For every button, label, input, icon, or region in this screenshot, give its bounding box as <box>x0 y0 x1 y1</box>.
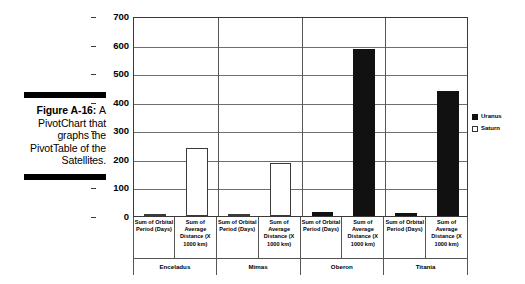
bar-uranus[interactable] <box>353 49 375 216</box>
pivot-chart: 7006005004003002001000 Sum of Orbital Pe… <box>110 4 522 280</box>
x-axis-category-label: Sum of Orbital Period (Days) <box>384 217 426 259</box>
bar-uranus[interactable] <box>395 213 417 216</box>
legend-item[interactable]: Uranus <box>472 113 522 120</box>
y-axis-tick <box>91 74 96 75</box>
x-axis-category-band: Sum of Orbital Period (Days)Sum of Avera… <box>133 217 468 259</box>
y-axis-tick <box>91 188 96 189</box>
x-axis-category-label: Sum of Orbital Period (Days) <box>133 217 175 259</box>
y-axis-tick <box>91 131 96 132</box>
x-axis-category-text: Sum of Orbital Period (Days) <box>384 219 425 233</box>
y-axis-tick-label: 700 <box>101 12 129 22</box>
x-axis-group-text: Oberon <box>331 263 353 271</box>
x-axis-category-text: Sum of Average Distance (X 1000 km) <box>259 219 300 248</box>
x-axis-category-label: Sum of Orbital Period (Days) <box>301 217 343 259</box>
y-axis-tick-label: 100 <box>101 183 129 193</box>
y-axis-tick <box>91 46 96 47</box>
x-axis-category-text: Sum of Orbital Period (Days) <box>134 219 174 233</box>
legend-item[interactable]: Saturn <box>472 125 522 132</box>
x-axis-category-label: Sum of Average Distance (X 1000 km) <box>426 217 468 259</box>
x-axis-category-text: Sum of Average Distance (X 1000 km) <box>426 219 467 248</box>
caption-rule-top <box>24 92 106 98</box>
y-axis: 7006005004003002001000 <box>96 17 129 217</box>
bar-saturn[interactable] <box>144 214 166 216</box>
plot-area <box>133 17 468 217</box>
figure-number: Figure A-16: <box>37 104 97 116</box>
x-axis-category-text: Sum of Average Distance (X 1000 km) <box>342 219 383 248</box>
chart-legend: UranusSaturn <box>472 113 522 137</box>
x-axis-group-label: Mimas <box>217 259 301 275</box>
legend-swatch-icon <box>472 126 478 132</box>
x-axis-category-label: Sum of Orbital Period (Days) <box>217 217 259 259</box>
x-axis-category-label: Sum of Average Distance (X 1000 km) <box>175 217 217 259</box>
x-axis-group-text: Titania <box>416 263 436 271</box>
y-axis-tick <box>91 103 96 104</box>
x-axis-category-label: Sum of Average Distance (X 1000 km) <box>342 217 384 259</box>
bar-uranus[interactable] <box>437 91 459 216</box>
x-axis-group-label: Enceladus <box>133 259 217 275</box>
bar-series-container <box>134 18 467 216</box>
bar-uranus[interactable] <box>312 212 334 216</box>
caption-rule-bottom <box>24 174 106 180</box>
y-axis-tick-label: 0 <box>101 212 129 222</box>
x-axis-group-label: Titania <box>384 259 468 275</box>
y-axis-tick-label: 200 <box>101 155 129 165</box>
legend-swatch-icon <box>472 114 478 120</box>
y-axis-tick-label: 400 <box>101 98 129 108</box>
figure-caption: Figure A-16: A PivotChart that graphs th… <box>24 92 106 180</box>
y-axis-tick <box>91 17 96 18</box>
legend-label: Saturn <box>481 125 500 132</box>
bar-saturn[interactable] <box>228 214 250 216</box>
x-axis-category-text: Sum of Orbital Period (Days) <box>217 219 258 233</box>
x-axis-group-band: EnceladusMimasOberonTitania <box>133 259 468 275</box>
legend-label: Uranus <box>481 113 502 120</box>
bar-saturn[interactable] <box>186 148 208 216</box>
y-axis-tick <box>91 160 96 161</box>
y-axis-tick-label: 600 <box>101 41 129 51</box>
x-axis-group-text: Mimas <box>248 263 267 271</box>
y-axis-tick <box>91 217 96 218</box>
x-axis-group-text: Enceladus <box>159 263 190 271</box>
y-axis-tick-label: 300 <box>101 126 129 136</box>
bar-saturn[interactable] <box>270 163 292 216</box>
x-axis-category-text: Sum of Average Distance (X 1000 km) <box>175 219 216 248</box>
caption-text: Figure A-16: A PivotChart that graphs th… <box>24 104 106 167</box>
x-axis-category-label: Sum of Average Distance (X 1000 km) <box>259 217 301 259</box>
y-axis-tick-label: 500 <box>101 69 129 79</box>
x-axis-category-text: Sum of Orbital Period (Days) <box>301 219 342 233</box>
x-axis-group-label: Oberon <box>301 259 385 275</box>
